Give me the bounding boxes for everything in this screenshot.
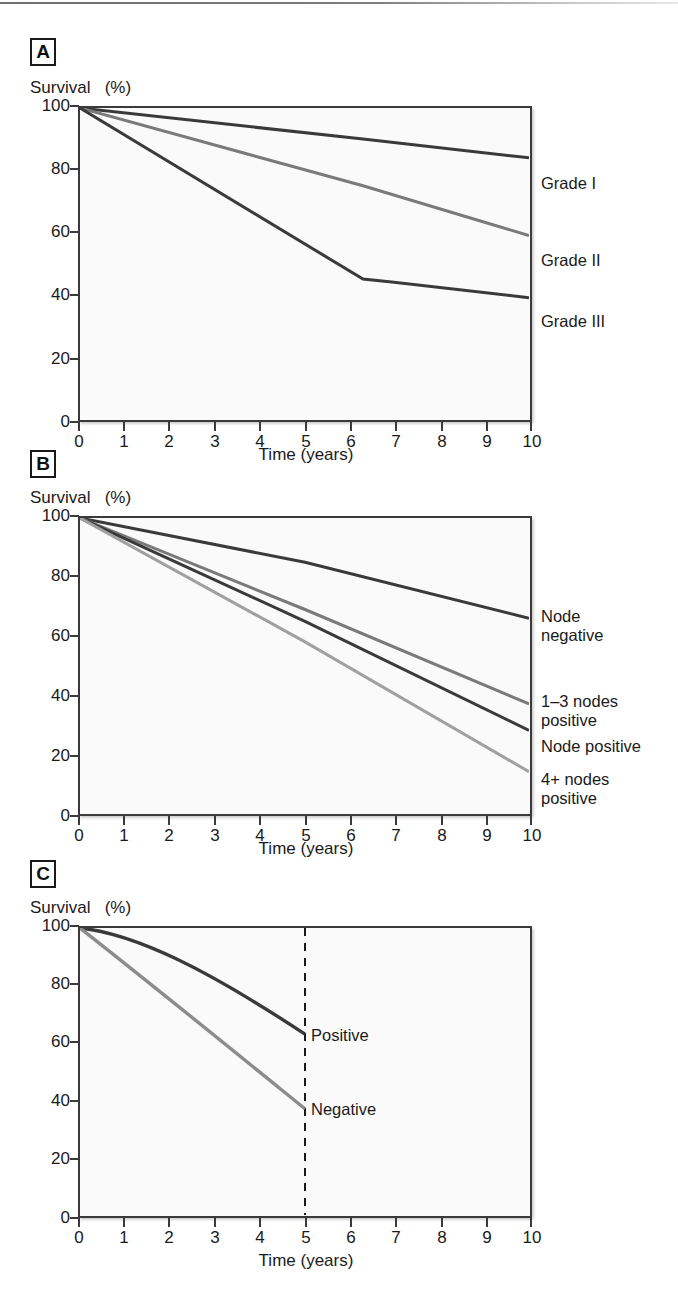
y-tick-mark (70, 695, 79, 697)
series-label-4-plus-nodes-positive: 4+ nodes positive (541, 770, 609, 808)
curve-node-negative (80, 518, 529, 618)
x-tick-mark (78, 816, 80, 825)
x-tick-label: 1 (119, 1228, 128, 1248)
x-tick-mark (214, 816, 216, 825)
y-tick-mark (70, 635, 79, 637)
x-tick-mark (168, 422, 170, 431)
x-tick-label: 0 (74, 826, 83, 846)
x-tick-label: 2 (164, 826, 173, 846)
panel-c-plot-area (78, 926, 532, 1218)
y-tick-mark (70, 358, 79, 360)
x-tick-mark (214, 1218, 216, 1227)
x-tick-label: 9 (482, 1228, 491, 1248)
panel-b-plot-area (78, 516, 532, 816)
x-tick-label: 0 (74, 1228, 83, 1248)
series-label-node-positive: Node positive (541, 737, 641, 756)
panel-c: C Survival (%) 100 80 60 40 20 0 (0, 860, 678, 1295)
series-label-negative: Negative (311, 1100, 376, 1119)
y-tick-label: 0 (0, 412, 70, 432)
y-tick-mark (70, 1100, 79, 1102)
panel-c-curves (80, 928, 529, 1215)
x-tick-mark (395, 1218, 397, 1227)
x-tick-mark (441, 422, 443, 431)
x-tick-mark (350, 1218, 352, 1227)
panel-letter-b: B (30, 450, 56, 478)
y-tick-label: 60 (0, 1032, 70, 1052)
y-tick-label: 40 (0, 686, 70, 706)
x-tick-label: 1 (119, 826, 128, 846)
y-tick-label: 80 (0, 974, 70, 994)
y-tick-mark (70, 925, 79, 927)
x-tick-mark (78, 422, 80, 431)
y-tick-label: 20 (0, 746, 70, 766)
x-tick-mark (486, 816, 488, 825)
panel-a-y-axis-title: Survival (%) (30, 78, 131, 98)
curve-grade-2 (80, 108, 529, 236)
series-label-positive: Positive (311, 1026, 369, 1045)
panel-b-curves (80, 518, 529, 813)
x-tick-mark (259, 422, 261, 431)
y-tick-mark (70, 168, 79, 170)
series-label-grade-2: Grade II (541, 251, 601, 270)
curve-node-positive (80, 518, 529, 730)
page-top-rule (0, 2, 678, 4)
x-tick-mark (305, 816, 307, 825)
y-tick-label: 100 (0, 96, 70, 116)
x-tick-mark (350, 816, 352, 825)
x-tick-mark (486, 422, 488, 431)
curve-4-plus-nodes-positive (80, 518, 529, 772)
y-tick-mark (70, 231, 79, 233)
x-tick-mark (395, 422, 397, 431)
y-tick-label: 0 (0, 806, 70, 826)
x-tick-mark (259, 816, 261, 825)
curve-1-3-nodes-positive (80, 518, 529, 704)
y-tick-label: 0 (0, 1208, 70, 1228)
y-tick-mark (70, 105, 79, 107)
x-tick-label: 3 (210, 1228, 219, 1248)
x-tick-mark (259, 1218, 261, 1227)
x-tick-mark (168, 816, 170, 825)
y-tick-label: 80 (0, 159, 70, 179)
x-tick-mark (123, 422, 125, 431)
y-tick-label: 60 (0, 626, 70, 646)
x-tick-mark (530, 1218, 532, 1227)
x-tick-mark (123, 816, 125, 825)
x-tick-label: 8 (437, 1228, 446, 1248)
series-label-1-3-nodes-positive: 1–3 nodes positive (541, 692, 618, 730)
panel-a: A Survival (%) 100 80 60 40 20 0 (0, 26, 678, 456)
panel-letter-c: C (30, 860, 56, 888)
x-tick-mark (350, 422, 352, 431)
x-tick-mark (530, 816, 532, 825)
x-tick-mark (123, 1218, 125, 1227)
x-tick-label: 7 (391, 1228, 400, 1248)
y-tick-label: 80 (0, 566, 70, 586)
y-tick-label: 40 (0, 285, 70, 305)
series-label-grade-3: Grade III (541, 312, 605, 331)
series-label-node-negative: Node negative (541, 607, 603, 645)
curve-grade-3 (80, 108, 529, 298)
y-tick-label: 40 (0, 1091, 70, 1111)
x-tick-mark (441, 816, 443, 825)
y-tick-label: 20 (0, 349, 70, 369)
y-tick-mark (70, 1041, 79, 1043)
y-tick-mark (70, 755, 79, 757)
panel-b: B Survival (%) 100 80 60 40 20 0 (0, 444, 678, 856)
x-tick-mark (441, 1218, 443, 1227)
panel-b-y-axis-title: Survival (%) (30, 488, 131, 508)
series-label-grade-1: Grade I (541, 174, 596, 193)
panel-a-plot-area (78, 106, 532, 422)
y-tick-label: 100 (0, 506, 70, 526)
x-tick-mark (214, 422, 216, 431)
x-tick-label: 4 (255, 1228, 264, 1248)
x-tick-label: 8 (437, 826, 446, 846)
x-tick-label: 2 (164, 1228, 173, 1248)
y-tick-label: 100 (0, 916, 70, 936)
x-tick-mark (305, 1218, 307, 1227)
y-tick-mark (70, 983, 79, 985)
curve-negative (80, 928, 305, 1109)
panel-c-x-axis-title: Time (years) (231, 1251, 381, 1271)
x-tick-label: 6 (346, 1228, 355, 1248)
x-tick-mark (168, 1218, 170, 1227)
x-tick-mark (305, 422, 307, 431)
x-tick-label: 10 (523, 1228, 542, 1248)
